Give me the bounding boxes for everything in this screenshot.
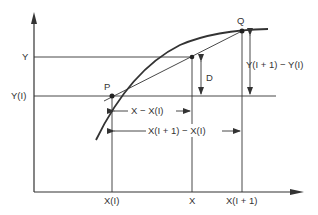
point-q	[240, 29, 245, 34]
interpolation-chord	[104, 31, 242, 101]
xi-label: X(I)	[104, 195, 119, 206]
x-minus-xi-label: X − X(I)	[131, 105, 163, 116]
xi1-label: X(I + 1)	[226, 195, 257, 206]
interpolation-diagram: P Q Y Y(I) X(I) X X(I + 1) D Y(I + 1) − …	[0, 0, 318, 215]
point-p-label: P	[104, 81, 110, 92]
point-q-label: Q	[237, 15, 244, 26]
d-label: D	[206, 72, 213, 83]
y-axis-arrow-icon	[31, 12, 37, 24]
y-label: Y	[22, 51, 29, 62]
point-p	[110, 94, 115, 99]
x-axis-arrow-icon	[290, 189, 304, 195]
point-interpolated	[190, 55, 195, 60]
x-diff-label: X(I + 1) − X(I)	[148, 125, 206, 136]
y-diff-label: Y(I + 1) − Y(I)	[246, 59, 303, 70]
x-label: X	[189, 195, 196, 206]
yi-label: Y(I)	[11, 90, 26, 101]
